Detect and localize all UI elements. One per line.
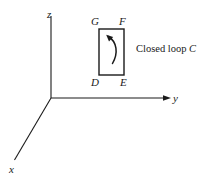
closed-loop-caption-text: Closed loop bbox=[136, 43, 189, 54]
closed-loop-caption-symbol: C bbox=[189, 43, 196, 54]
y-axis-label: y bbox=[173, 93, 178, 104]
closed-loop-rectangle bbox=[99, 29, 124, 75]
y-axis-arrowhead-icon bbox=[163, 95, 171, 101]
z-axis-label: z bbox=[47, 9, 51, 20]
vertex-label-f: F bbox=[119, 16, 126, 27]
vertex-label-d: D bbox=[91, 77, 99, 88]
vertex-label-g: G bbox=[91, 16, 99, 27]
x-axis-line bbox=[15, 98, 52, 160]
figure-vector-graphics bbox=[0, 0, 214, 182]
x-axis-label: x bbox=[9, 164, 14, 175]
vertex-label-e: E bbox=[120, 77, 127, 88]
closed-loop-caption: Closed loop C bbox=[136, 44, 196, 55]
figure-canvas: z y x G F E D Closed loop C bbox=[0, 0, 214, 182]
